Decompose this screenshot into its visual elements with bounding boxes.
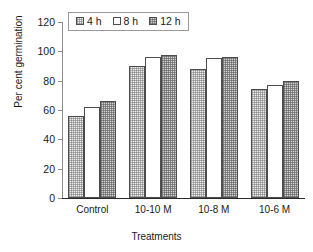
y-tick-label: 60 [43, 104, 55, 116]
chart-legend: 4 h8 h12 h [68, 12, 189, 31]
legend-swatch-icon [76, 17, 84, 25]
legend-label: 4 h [87, 15, 102, 27]
bar-set [62, 22, 123, 198]
y-tick-mark [58, 198, 62, 199]
legend-item: 8 h [113, 15, 139, 27]
bar-group: 10-10 M [123, 22, 184, 198]
y-tick-label: 100 [37, 45, 55, 57]
legend-label: 8 h [124, 15, 139, 27]
x-axis-line [62, 198, 305, 199]
x-tick-label: 10-10 M [135, 204, 172, 215]
x-axis-title: Treatments [0, 231, 313, 242]
y-tick-label: 80 [43, 75, 55, 87]
bar [145, 57, 161, 198]
x-tick-label: 10-6 M [259, 204, 290, 215]
x-tick-label: 10-8 M [198, 204, 229, 215]
y-tick-label: 20 [43, 163, 55, 175]
bar [283, 81, 299, 198]
bar [251, 89, 267, 198]
bar-group: 10-6 M [244, 22, 305, 198]
bar [190, 69, 206, 198]
bar [68, 116, 84, 198]
legend-label: 12 h [160, 15, 180, 27]
bar [267, 85, 283, 198]
bar-set [244, 22, 305, 198]
y-axis-title: Per cent germination [13, 0, 24, 142]
bar [100, 101, 116, 198]
bar-chart: Per cent germination 020406080100120 Con… [0, 0, 313, 252]
y-tick-label: 120 [37, 16, 55, 28]
plot-area: 020406080100120 Control10-10 M10-8 M10-6… [62, 22, 305, 198]
bar [84, 107, 100, 198]
bar [222, 57, 238, 198]
y-tick-label: 40 [43, 133, 55, 145]
legend-item: 4 h [76, 15, 102, 27]
bar-group: Control [62, 22, 123, 198]
bar [206, 58, 222, 198]
bar-set [123, 22, 184, 198]
bar-set [184, 22, 245, 198]
legend-swatch-icon [113, 17, 121, 25]
bar-groups: Control10-10 M10-8 M10-6 M [62, 22, 305, 198]
legend-item: 12 h [149, 15, 180, 27]
bar-group: 10-8 M [184, 22, 245, 198]
y-tick-label: 0 [49, 192, 55, 204]
x-tick-label: Control [76, 204, 108, 215]
legend-swatch-icon [149, 17, 157, 25]
bar [129, 66, 145, 198]
bar [161, 55, 177, 198]
